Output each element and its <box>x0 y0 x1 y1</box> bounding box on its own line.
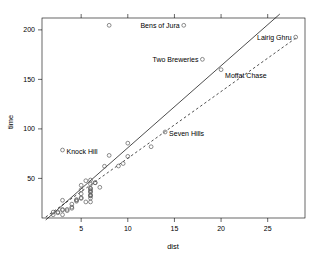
x-axis-label: dist <box>167 242 180 251</box>
y-tick-label: 50 <box>27 175 35 182</box>
point-annotation-label: Moffat Chase <box>225 72 267 79</box>
point-annotation-label: Two Breweries <box>153 56 199 63</box>
y-tick-label: 200 <box>23 26 35 33</box>
scatter-plot-figure: 510152025 50100150200 Bens of JuraLairig… <box>0 0 324 260</box>
y-axis-label: time <box>6 115 15 129</box>
point-annotation-label: Seven Hills <box>169 130 205 137</box>
point-annotation-label: Lairig Ghru <box>257 34 292 42</box>
x-tick-label: 25 <box>264 225 272 232</box>
x-tick-label: 20 <box>217 225 225 232</box>
x-tick-label: 5 <box>79 225 83 232</box>
plot-canvas: 510152025 50100150200 Bens of JuraLairig… <box>0 0 324 260</box>
point-annotation-label: Bens of Jura <box>140 22 179 29</box>
x-tick-label: 15 <box>171 225 179 232</box>
y-tick-label: 100 <box>23 125 35 132</box>
point-annotation-label: Knock Hill <box>67 148 99 155</box>
x-tick-label: 10 <box>124 225 132 232</box>
y-tick-label: 150 <box>23 76 35 83</box>
